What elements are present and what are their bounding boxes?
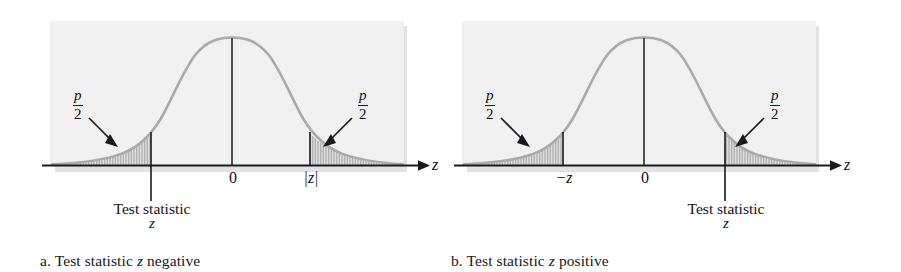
two-tailed-z-test-figure: z p 2 p 2 0 |z| Test statistic z a.	[0, 0, 901, 272]
panel-b-tick-label-left: −z	[549, 170, 579, 187]
panel-b-plate	[462, 21, 816, 166]
panel-a-plate	[50, 21, 404, 166]
panel-a-axis-label: z	[432, 157, 438, 174]
panel-b-axis-arrowhead	[830, 160, 842, 171]
panel-b-statistic-annotation: Test statistic z	[662, 201, 790, 232]
panel-b-left-area-label: p 2	[485, 88, 495, 122]
panel-b-axis-label: z	[844, 157, 850, 174]
panel-a-caption: a. Test statistic z negative	[40, 252, 200, 270]
panel-a-tick-label-center: 0	[224, 170, 242, 187]
panel-a-tick-label-right: |z|	[296, 170, 326, 187]
panel-a-plot	[0, 0, 450, 272]
panel-a-statistic-annotation: Test statistic z	[88, 201, 216, 232]
panel-b-caption: b. Test statistic z positive	[451, 252, 609, 270]
panel-b-tick-label-center: 0	[636, 170, 654, 187]
panel-a-axis-arrowhead	[418, 160, 430, 171]
panel-a-left-area-label: p 2	[73, 88, 83, 122]
panel-a-right-area-label: p 2	[358, 88, 368, 122]
panel-b-test-statistic-positive: z p 2 p 2 −z 0 Test statistic z b. Test …	[451, 0, 901, 272]
panel-b-right-area-label: p 2	[770, 88, 780, 122]
panel-a-test-statistic-negative: z p 2 p 2 0 |z| Test statistic z a.	[0, 0, 450, 272]
